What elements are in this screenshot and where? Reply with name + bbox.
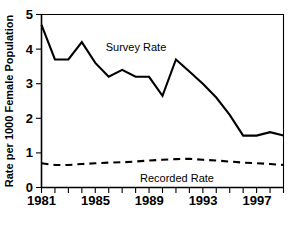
y-tick-label-2: 2: [26, 111, 33, 126]
line-chart: 5 4 3 2 1 0 Rate per 1000 Female Populat…: [0, 0, 296, 226]
y-tick-label-5: 5: [26, 7, 33, 22]
x-tick-label-1981: 1981: [27, 193, 56, 208]
x-tick-label-1997: 1997: [243, 193, 272, 208]
y-tick-label-4: 4: [26, 42, 34, 57]
chart-figure: 5 4 3 2 1 0 Rate per 1000 Female Populat…: [0, 0, 296, 226]
x-tick-label-1989: 1989: [135, 193, 164, 208]
y-tick-label-3: 3: [26, 76, 33, 91]
x-tick-label-1985: 1985: [81, 193, 110, 208]
annotation-recorded-rate: Recorded Rate: [140, 172, 214, 184]
annotation-survey-rate: Survey Rate: [106, 41, 167, 53]
x-tick-label-1993: 1993: [189, 193, 218, 208]
y-axis-title: Rate per 1000 Female Population: [3, 15, 15, 188]
y-tick-label-1: 1: [26, 145, 33, 160]
